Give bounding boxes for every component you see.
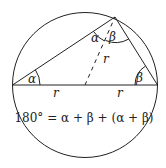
label-alpha-top: α: [91, 31, 99, 45]
inscribed-angle-diagram: α α β β r r r 180° = α + β + (α + β): [0, 0, 166, 168]
equation: 180° = α + β + (α + β): [14, 111, 153, 125]
label-beta-top: β: [108, 30, 116, 44]
label-r-right: r: [117, 86, 124, 100]
label-r-dashed: r: [103, 52, 110, 66]
label-r-left: r: [53, 86, 60, 100]
label-beta-right: β: [135, 71, 143, 85]
label-alpha-left: α: [28, 72, 36, 86]
